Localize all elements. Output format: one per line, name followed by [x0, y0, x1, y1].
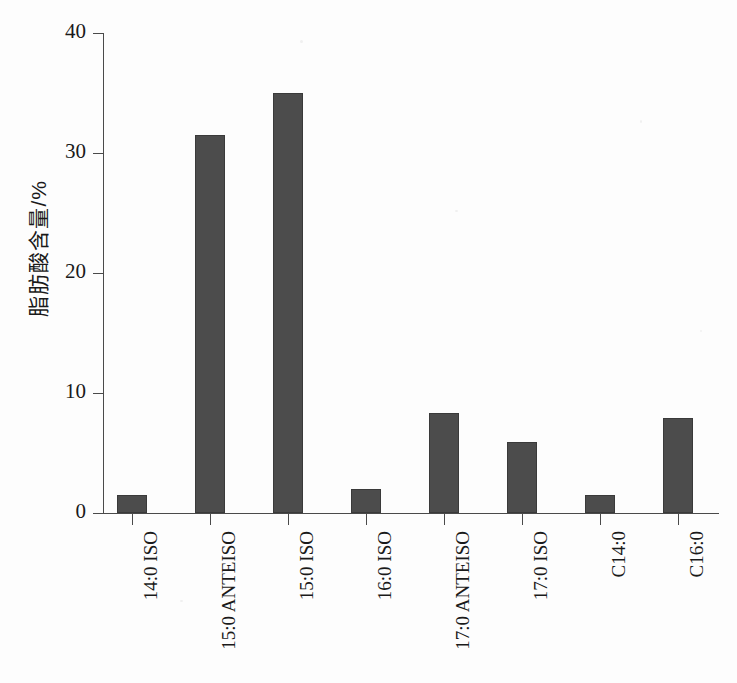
y-tick-label: 0: [40, 499, 86, 524]
y-tick-label: 40: [40, 19, 86, 44]
bar: [663, 418, 693, 513]
x-tick-mark: [522, 514, 523, 525]
bar: [117, 495, 147, 513]
bar: [273, 93, 303, 513]
x-tick-label: 16:0 ISO: [374, 531, 396, 600]
x-tick-mark: [678, 514, 679, 525]
x-tick-label: C16:0: [686, 531, 708, 577]
x-tick-mark: [288, 514, 289, 525]
y-axis-line: [103, 33, 104, 514]
scan-speckle: [455, 210, 458, 212]
x-tick-label: 15:0 ISO: [296, 531, 318, 600]
x-axis-line: [103, 513, 719, 514]
bar: [351, 489, 381, 513]
scan-speckle: [640, 120, 642, 123]
y-tick-label: 20: [40, 259, 86, 284]
scan-speckle: [300, 40, 303, 43]
y-tick-mark: [93, 33, 103, 34]
y-tick-label: 30: [40, 139, 86, 164]
x-tick-mark: [210, 514, 211, 525]
bar: [195, 135, 225, 513]
x-tick-label: 15:0 ANTEISO: [218, 531, 240, 650]
x-tick-label: 17:0 ANTEISO: [452, 531, 474, 650]
x-tick-mark: [132, 514, 133, 525]
y-tick-mark: [93, 273, 103, 274]
y-axis-label: 脂肪酸含量/%: [22, 180, 52, 317]
bar: [429, 413, 459, 513]
scan-speckle: [180, 600, 183, 602]
bar: [507, 442, 537, 513]
y-tick-mark: [93, 153, 103, 154]
x-tick-mark: [600, 514, 601, 525]
x-tick-mark: [444, 514, 445, 525]
x-tick-mark: [366, 514, 367, 525]
x-tick-label: 17:0 ISO: [530, 531, 552, 600]
bar: [585, 495, 615, 513]
scan-speckle: [700, 330, 702, 332]
x-tick-label: C14:0: [608, 531, 630, 577]
bar-chart: 脂肪酸含量/% 010203040 14:0 ISO15:0 ANTEISO15…: [0, 0, 737, 683]
y-tick-mark: [93, 393, 103, 394]
y-tick-mark: [93, 513, 103, 514]
x-tick-label: 14:0 ISO: [140, 531, 162, 600]
y-tick-label: 10: [40, 379, 86, 404]
